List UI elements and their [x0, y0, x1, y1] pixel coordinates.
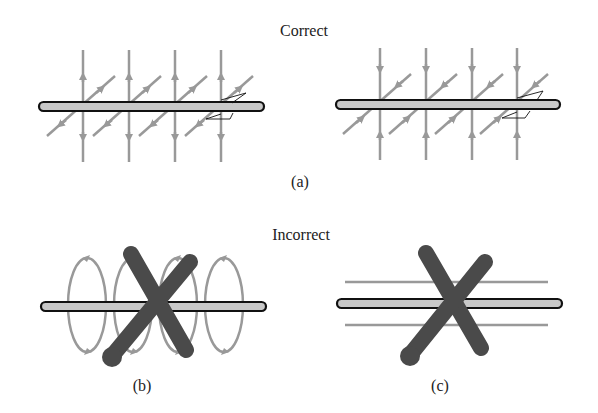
wire	[39, 102, 264, 111]
cross-out-blob	[400, 346, 420, 366]
panel-c	[337, 253, 562, 366]
panel-a-left	[39, 50, 264, 162]
diagram-canvas	[0, 0, 598, 413]
panel-a-right	[336, 48, 560, 160]
wire	[336, 100, 560, 109]
cross-out-blob	[102, 347, 122, 367]
panel-b	[41, 254, 266, 367]
